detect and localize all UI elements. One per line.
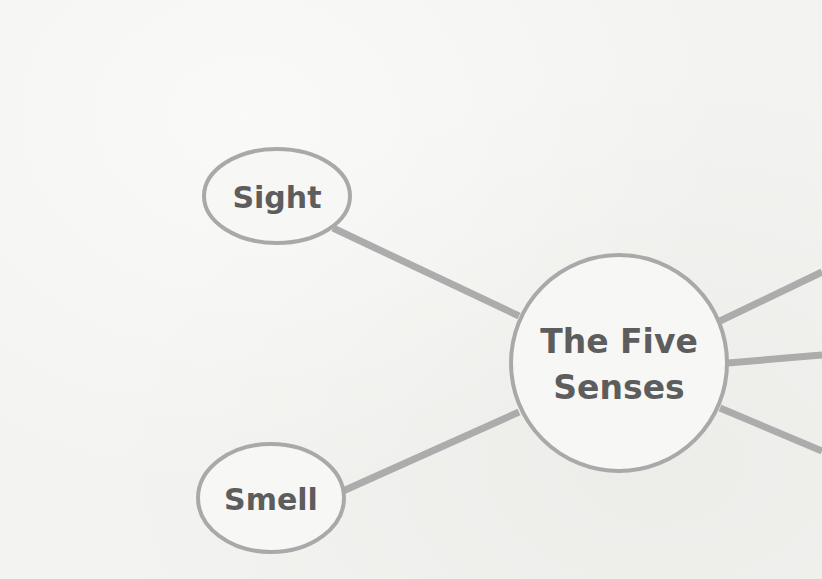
center-label-line1: The Five <box>540 322 698 361</box>
node-sight-label: Sight <box>232 180 321 215</box>
center-node-circle <box>511 255 727 471</box>
node-smell-label: Smell <box>224 482 318 517</box>
connector-right-lower <box>720 408 822 451</box>
node-smell[interactable]: Smell <box>198 444 344 552</box>
center-label-line2: Senses <box>553 368 684 407</box>
connector-right-upper <box>720 272 822 321</box>
connector-sight <box>333 228 519 316</box>
node-sight[interactable]: Sight <box>204 149 350 243</box>
connector-smell <box>343 412 519 491</box>
five-senses-mind-map: The Five Senses Sight Smell <box>0 0 822 579</box>
connector-right-middle <box>728 355 822 363</box>
center-node[interactable]: The Five Senses <box>511 255 727 471</box>
